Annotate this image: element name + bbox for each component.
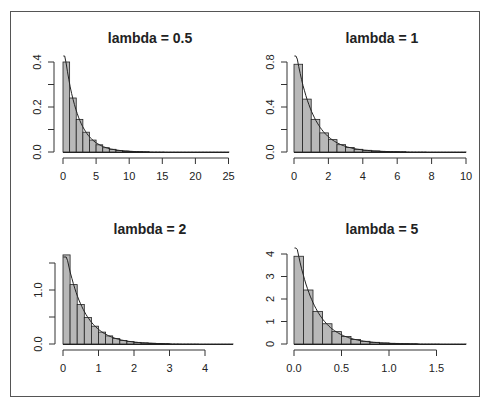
x-tick-label: 0.0 xyxy=(286,362,301,374)
x-tick-label: 4 xyxy=(202,362,208,374)
x-tick-label: 0.5 xyxy=(334,362,349,374)
y-tick-label: 1.0 xyxy=(32,282,44,297)
x-tick-label: 0 xyxy=(291,170,297,182)
x-tick-label: 20 xyxy=(189,170,201,182)
x-tick-label: 2 xyxy=(131,362,137,374)
y-tick-label: 3 xyxy=(264,273,276,279)
y-tick-label: 0.0 xyxy=(31,144,43,159)
x-tick-label: 6 xyxy=(394,170,400,182)
x-tick-label: 3 xyxy=(166,362,172,374)
panel-title: lambda = 1 xyxy=(346,30,419,46)
x-tick-label: 10 xyxy=(123,170,135,182)
x-tick-label: 1 xyxy=(95,362,101,374)
y-tick-label: 0.0 xyxy=(264,144,276,159)
x-tick-label: 1.5 xyxy=(429,362,444,374)
panel-title: lambda = 2 xyxy=(114,221,187,237)
x-tick-label: 8 xyxy=(429,170,435,182)
x-tick-label: 4 xyxy=(360,170,366,182)
x-tick-label: 15 xyxy=(156,170,168,182)
y-tick-label: 0.4 xyxy=(31,54,43,69)
y-tick-label: 0 xyxy=(264,341,276,347)
x-tick-label: 25 xyxy=(222,170,234,182)
x-tick-label: 1.0 xyxy=(381,362,396,374)
x-tick-label: 0 xyxy=(60,170,66,182)
y-tick-label: 4 xyxy=(264,251,276,257)
y-tick-label: 0.0 xyxy=(32,336,44,351)
y-tick-label: 2 xyxy=(264,296,276,302)
y-tick-label: 0.2 xyxy=(31,99,43,114)
histogram-bar xyxy=(323,324,333,344)
x-tick-label: 2 xyxy=(325,170,331,182)
x-tick-label: 5 xyxy=(93,170,99,182)
y-tick-label: 0.8 xyxy=(264,54,276,69)
panel-title: lambda = 0.5 xyxy=(108,30,193,46)
y-tick-label: 0.4 xyxy=(264,99,276,114)
x-tick-label: 10 xyxy=(460,170,472,182)
x-tick-label: 0 xyxy=(60,362,66,374)
histogram-bar xyxy=(332,332,342,344)
figure-stage: lambda = 0.50.00.20.40510152025 lambda =… xyxy=(0,0,486,406)
histogram-figure: lambda = 0.50.00.20.40510152025 lambda =… xyxy=(0,0,486,406)
y-tick-label: 1 xyxy=(264,318,276,324)
panel-title: lambda = 5 xyxy=(346,221,419,237)
